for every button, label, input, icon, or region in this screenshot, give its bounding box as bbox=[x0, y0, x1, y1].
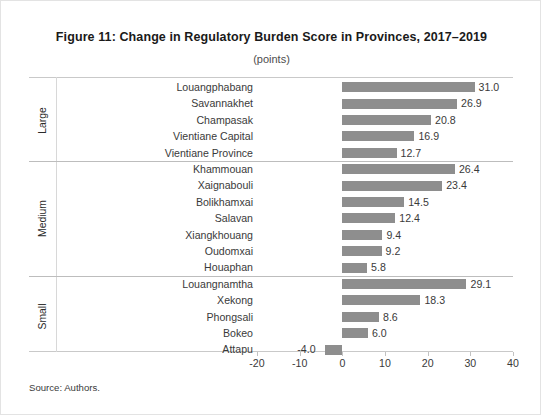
title-block: Figure 11: Change in Regulatory Burden S… bbox=[1, 29, 541, 67]
table-row: Bokeo6.0 bbox=[29, 325, 513, 341]
bar-value-label: 18.3 bbox=[424, 292, 445, 308]
bar-track: 8.6 bbox=[257, 309, 513, 325]
table-row: Houaphan5.8 bbox=[29, 259, 513, 275]
bar-track: 14.5 bbox=[257, 194, 513, 210]
bar-value-label: 8.6 bbox=[383, 309, 398, 325]
axis-tick-mark bbox=[342, 352, 343, 356]
axis-tick-mark bbox=[385, 352, 386, 356]
axis-tick-mark bbox=[513, 352, 514, 356]
axis-tick-mark bbox=[300, 352, 301, 356]
bar bbox=[342, 279, 466, 289]
plot-top-border bbox=[29, 77, 513, 78]
bar-track: 12.7 bbox=[257, 145, 513, 161]
bar bbox=[342, 181, 442, 191]
group-divider bbox=[29, 276, 513, 277]
bar-value-label: 26.9 bbox=[461, 95, 482, 111]
table-row: Oudomxai9.2 bbox=[29, 243, 513, 259]
group-label-text: Small bbox=[37, 304, 48, 330]
bar bbox=[342, 197, 404, 207]
table-row: Champasak20.8 bbox=[29, 112, 513, 128]
bar-track: 12.4 bbox=[257, 210, 513, 226]
bar-track: 9.2 bbox=[257, 243, 513, 259]
bar bbox=[342, 99, 457, 109]
bar bbox=[342, 312, 379, 322]
group-label-large: Large bbox=[29, 79, 56, 161]
table-row: Khammouan26.4 bbox=[29, 161, 513, 177]
bar-track: 31.0 bbox=[257, 79, 513, 95]
category-label: Khammouan bbox=[57, 161, 253, 177]
axis-tick-mark bbox=[257, 352, 258, 356]
bar-value-label: 12.4 bbox=[399, 210, 420, 226]
axis-tick-label: -20 bbox=[237, 357, 277, 369]
axis-tick-label: 0 bbox=[322, 357, 362, 369]
bar bbox=[342, 164, 455, 174]
axis-tick-label: 10 bbox=[365, 357, 405, 369]
axis-tick-mark bbox=[470, 352, 471, 356]
category-label: Champasak bbox=[57, 112, 253, 128]
category-label: Vientiane Province bbox=[57, 145, 253, 161]
bar-track: 18.3 bbox=[257, 292, 513, 308]
bar bbox=[342, 213, 395, 223]
category-label: Houaphan bbox=[57, 259, 253, 275]
bar-track: 6.0 bbox=[257, 325, 513, 341]
table-row: Louangnamtha29.1 bbox=[29, 276, 513, 292]
group-label-text: Medium bbox=[37, 200, 48, 237]
axis-tick-label: 30 bbox=[450, 357, 490, 369]
bar bbox=[342, 115, 431, 125]
x-axis: -20-10010203040 bbox=[29, 352, 513, 372]
bar-track: 26.4 bbox=[257, 161, 513, 177]
category-label: Louangnamtha bbox=[57, 276, 253, 292]
bar-value-label: 9.2 bbox=[386, 243, 401, 259]
table-row: Xekong18.3 bbox=[29, 292, 513, 308]
bar-value-label: 14.5 bbox=[408, 194, 429, 210]
bar-value-label: 5.8 bbox=[371, 259, 386, 275]
category-label: Phongsali bbox=[57, 309, 253, 325]
bar-track: 20.8 bbox=[257, 112, 513, 128]
category-label: Xaignabouli bbox=[57, 177, 253, 193]
plot-area: Louangphabang31.0Savannakhet26.9Champasa… bbox=[29, 77, 513, 352]
bar bbox=[342, 148, 396, 158]
bar-value-label: 26.4 bbox=[459, 161, 480, 177]
bar-value-label: 6.0 bbox=[372, 325, 387, 341]
bar-value-label: 20.8 bbox=[435, 112, 456, 128]
category-label: Xekong bbox=[57, 292, 253, 308]
bar-track: 9.4 bbox=[257, 227, 513, 243]
bar bbox=[342, 246, 381, 256]
category-label: Oudomxai bbox=[57, 243, 253, 259]
figure-container: Figure 11: Change in Regulatory Burden S… bbox=[0, 0, 541, 415]
bar-value-label: 9.4 bbox=[386, 227, 401, 243]
category-label: Savannakhet bbox=[57, 95, 253, 111]
bar-track: 23.4 bbox=[257, 177, 513, 193]
bar bbox=[342, 295, 420, 305]
bar-track: 26.9 bbox=[257, 95, 513, 111]
bar-track: 29.1 bbox=[257, 276, 513, 292]
group-label-medium: Medium bbox=[29, 161, 56, 276]
bar-value-label: 23.4 bbox=[446, 177, 467, 193]
category-label: Bokeo bbox=[57, 325, 253, 341]
bar-track: 5.8 bbox=[257, 259, 513, 275]
category-label: Louangphabang bbox=[57, 79, 253, 95]
bar bbox=[342, 263, 367, 273]
category-label: Salavan bbox=[57, 210, 253, 226]
table-row: Vientiane Province12.7 bbox=[29, 145, 513, 161]
category-label: Bolikhamxai bbox=[57, 194, 253, 210]
table-row: Xaignabouli23.4 bbox=[29, 177, 513, 193]
axis-tick-label: 20 bbox=[408, 357, 448, 369]
bar-track: 16.9 bbox=[257, 128, 513, 144]
table-row: Savannakhet26.9 bbox=[29, 95, 513, 111]
table-row: Xiangkhouang9.4 bbox=[29, 227, 513, 243]
bar-value-label: 31.0 bbox=[479, 79, 500, 95]
bar-value-label: 29.1 bbox=[470, 276, 491, 292]
chart-subtitle: (points) bbox=[1, 51, 541, 67]
table-row: Phongsali8.6 bbox=[29, 309, 513, 325]
bar bbox=[342, 82, 474, 92]
axis-tick-label: 40 bbox=[493, 357, 533, 369]
table-row: Vientiane Capital16.9 bbox=[29, 128, 513, 144]
source-note: Source: Authors. bbox=[29, 382, 100, 393]
bar-value-label: 12.7 bbox=[401, 145, 422, 161]
table-row: Bolikhamxai14.5 bbox=[29, 194, 513, 210]
category-label: Xiangkhouang bbox=[57, 227, 253, 243]
bar bbox=[342, 230, 382, 240]
group-label-small: Small bbox=[29, 276, 56, 358]
category-label: Vientiane Capital bbox=[57, 128, 253, 144]
